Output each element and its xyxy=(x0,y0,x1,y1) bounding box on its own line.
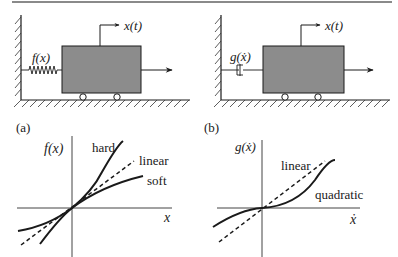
mass-a xyxy=(62,46,141,93)
curve-soft xyxy=(18,176,143,231)
label-linear-b: linear xyxy=(281,158,311,173)
wheel-a-right xyxy=(114,94,120,100)
spring-icon xyxy=(21,66,62,74)
mass-b xyxy=(263,46,344,93)
graph-a-ylabel: f(x) xyxy=(44,141,64,157)
label-quadratic: quadratic xyxy=(315,187,364,202)
wheel-b-right xyxy=(315,94,321,100)
system-b-damper-mass: g(ẋ) x(t) xyxy=(214,15,390,107)
label-linear: linear xyxy=(139,153,169,168)
graph-b: (b) g(ẋ) linear quadratic ẋ xyxy=(204,120,364,257)
displacement-arrow-a xyxy=(100,25,119,46)
wall-a-hatch xyxy=(15,17,21,96)
displacement-label-b: x(t) xyxy=(324,18,343,33)
panel-label-b: (b) xyxy=(204,120,219,135)
damper-force-label: g(ẋ) xyxy=(230,49,251,64)
spring-force-label: f(x) xyxy=(32,50,50,65)
floor-b-hatch xyxy=(214,100,389,107)
wheel-b-left xyxy=(282,94,288,100)
displacement-arrow-b xyxy=(301,25,320,46)
figure-canvas: f(x) x(t) xyxy=(0,0,398,257)
wheel-a-left xyxy=(80,94,86,100)
damper-icon xyxy=(221,64,263,76)
graph-b-xlabel: ẋ xyxy=(349,212,357,227)
wall-b-hatch xyxy=(215,17,221,96)
label-hard: hard xyxy=(92,140,116,155)
displacement-label-a: x(t) xyxy=(123,18,142,33)
graph-a-xlabel: x xyxy=(163,210,171,225)
panel-label-a: (a) xyxy=(16,120,30,135)
curve-linear-b xyxy=(219,161,325,242)
floor-a-hatch xyxy=(14,100,189,107)
graph-a: (a) f(x) hard linear soft x xyxy=(16,120,172,257)
figure: f(x) x(t) xyxy=(0,0,398,257)
label-soft: soft xyxy=(147,173,167,188)
graph-b-ylabel: g(ẋ) xyxy=(235,139,256,154)
curve-hard xyxy=(40,141,123,244)
system-a-spring-mass: f(x) x(t) xyxy=(14,15,190,107)
